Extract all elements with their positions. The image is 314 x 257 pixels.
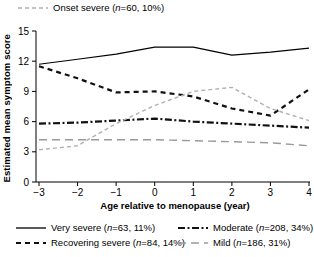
legend-swatch-mild — [178, 238, 208, 248]
x-tick-label: 4 — [306, 187, 312, 198]
legend-label-onset-severe: Onset severe (n=60, 10%) — [53, 3, 164, 13]
series-layer — [39, 47, 309, 150]
x-tick-label: 2 — [229, 187, 235, 198]
y-tick-label: 9 — [23, 86, 29, 97]
x-ticks — [39, 182, 309, 186]
x-axis-title: Age relative to menopause (year) — [36, 200, 314, 211]
x-tick-labels: −3 −2 −1 0 1 2 3 4 — [33, 187, 312, 198]
series-line-very-severe — [39, 47, 309, 64]
legend-swatch-recovering-severe — [16, 238, 46, 248]
x-tick-label: −2 — [72, 187, 84, 198]
legend-label-recovering-severe: Recovering severe (n=84, 14%) — [51, 238, 185, 248]
legend-top: Onset severe (n=60, 10%) — [18, 1, 164, 15]
legend-entry-mild: Mild (n=186, 31%) — [178, 236, 290, 249]
chart-svg: 15 12 9 6 3 0 −3 −2 −1 — [0, 18, 314, 200]
y-tick-label: 3 — [23, 146, 29, 157]
legend-swatch-onset-severe — [18, 3, 48, 13]
legend-bottom: Very severe (n=63, 11%) Moderate (n=208,… — [0, 219, 314, 257]
legend-label-mild: Mild (n=186, 31%) — [213, 238, 290, 248]
legend-swatch-very-severe — [16, 223, 46, 233]
y-tick-label: 6 — [23, 116, 29, 127]
series-line-mild — [39, 140, 309, 146]
legend-swatch-moderate — [178, 223, 208, 233]
x-tick-label: −3 — [33, 187, 45, 198]
legend-label-very-severe: Very severe (n=63, 11%) — [51, 223, 155, 233]
x-tick-label: −1 — [110, 187, 122, 198]
y-tick-label: 15 — [18, 26, 30, 37]
x-tick-label: 1 — [191, 187, 197, 198]
legend-entry-recovering-severe: Recovering severe (n=84, 14%) — [16, 236, 185, 249]
legend-label-moderate: Moderate (n=208, 34%) — [213, 223, 313, 233]
legend-entry-very-severe: Very severe (n=63, 11%) — [16, 221, 155, 234]
series-line-moderate — [39, 119, 309, 128]
plot-area: 15 12 9 6 3 0 −3 −2 −1 — [0, 18, 314, 200]
x-tick-label: 3 — [268, 187, 274, 198]
y-ticks — [32, 31, 36, 182]
x-tick-label: 0 — [152, 187, 158, 198]
y-tick-label: 0 — [23, 177, 29, 188]
figure-root: Onset severe (n=60, 10%) Estimated mean … — [0, 0, 314, 257]
y-tick-labels: 15 12 9 6 3 0 — [18, 26, 30, 188]
legend-entry-moderate: Moderate (n=208, 34%) — [178, 221, 313, 234]
y-tick-label: 12 — [18, 56, 30, 67]
